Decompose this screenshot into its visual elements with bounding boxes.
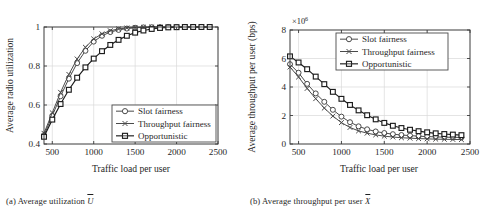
y-tick-labels-a: 0.40.60.81 <box>29 22 41 149</box>
data-point-marker <box>91 39 96 44</box>
data-point-marker <box>75 75 80 80</box>
data-point-marker <box>124 33 129 38</box>
data-point-marker <box>50 117 55 122</box>
overbar-a <box>88 194 93 195</box>
chart-a-svg: 5001000150020002500 0.40.60.81 Slot fair… <box>0 0 242 185</box>
legend-label: Slot fairness <box>362 34 407 44</box>
y-tick-label: 0 <box>281 139 286 149</box>
caption-a: (a) Average utilization U <box>6 196 94 206</box>
x-tick-labels-a: 5001000150020002500 <box>45 147 227 157</box>
x-tick-label: 1500 <box>375 147 394 157</box>
y-tick-label: 0.8 <box>29 61 41 71</box>
data-point-marker <box>356 108 361 113</box>
data-point-marker <box>322 99 327 104</box>
y-tick-label: 0.6 <box>29 100 41 110</box>
data-point-marker <box>116 27 121 32</box>
panel-a: 5001000150020002500 0.40.60.81 Slot fair… <box>0 0 242 220</box>
caption-b-text: Average throughput per user <box>262 196 363 206</box>
y-axis-label-b: Average throughput per user (bps) <box>246 21 258 152</box>
x-tick-label: 1000 <box>85 147 104 157</box>
data-point-marker <box>305 67 310 72</box>
data-point-marker <box>416 129 421 134</box>
legend-marker-circle-icon <box>346 37 351 42</box>
data-point-marker <box>433 131 438 136</box>
data-point-marker <box>313 74 318 79</box>
data-point-marker <box>158 26 163 31</box>
data-point-marker <box>116 37 121 42</box>
data-point-marker <box>296 60 301 65</box>
legend-label: Throughput fairness <box>362 47 435 57</box>
legend-a[interactable]: Slot fairnessThroughput fairnessOpportun… <box>112 105 216 142</box>
caption-a-prefix: (a) <box>6 196 16 206</box>
data-point-marker <box>408 127 413 132</box>
data-point-marker <box>313 91 318 96</box>
caption-b-symbol: X <box>365 196 370 206</box>
data-point-marker <box>425 130 430 135</box>
data-point-marker <box>100 49 105 54</box>
data-point-marker <box>399 133 404 138</box>
data-point-marker <box>58 102 63 107</box>
x-tick-label: 2000 <box>418 147 437 157</box>
chart-b: 5001000150020002500 02468 Slot fairnessT… <box>242 0 484 185</box>
y-tick-label: 0.4 <box>29 139 41 149</box>
x-axis-label-b: Traffic load per user <box>340 163 419 174</box>
data-point-marker <box>373 117 378 122</box>
x-tick-label: 1500 <box>126 147 145 157</box>
x-tick-label: 500 <box>292 147 306 157</box>
data-point-marker <box>66 87 71 92</box>
y-axis-label-a: Average radio utilization <box>4 38 15 133</box>
data-point-marker <box>141 28 146 33</box>
overbar-b <box>365 194 370 195</box>
y-tick-label: 2 <box>281 111 286 121</box>
caption-b-prefix: (b) <box>250 196 260 206</box>
caption-a-text: Average utilization <box>18 196 85 206</box>
data-point-marker <box>108 43 113 48</box>
x-tick-label: 2500 <box>461 147 480 157</box>
legend-label: Slot fairness <box>138 106 183 116</box>
data-point-marker <box>348 120 353 125</box>
y-axis-exponent-b: ×106 <box>292 16 308 26</box>
legend-b[interactable]: Slot fairnessThroughput fairnessOpportun… <box>336 33 448 70</box>
data-point-marker <box>348 103 353 108</box>
data-point-marker <box>133 30 138 35</box>
legend-label: Opportunistic <box>138 131 188 141</box>
data-point-marker <box>382 121 387 126</box>
x-tick-label: 2000 <box>167 147 186 157</box>
y-tick-labels-b: 02468 <box>281 25 286 149</box>
data-point-marker <box>459 133 464 138</box>
y-tick-label: 1 <box>35 22 40 32</box>
figure-two-panel: 5001000150020002500 0.40.60.81 Slot fair… <box>0 0 484 220</box>
data-point-marker <box>365 113 370 118</box>
data-point-marker <box>390 123 395 128</box>
data-point-marker <box>339 96 344 101</box>
x-tick-label: 2500 <box>209 147 228 157</box>
data-point-marker <box>399 126 404 131</box>
caption-b: (b) Average throughput per user X <box>250 196 370 206</box>
data-point-marker <box>83 65 88 70</box>
y-tick-label: 4 <box>281 82 286 92</box>
x-axis-label-a: Traffic load per user <box>92 163 171 174</box>
data-point-marker <box>91 56 96 61</box>
chart-a: 5001000150020002500 0.40.60.81 Slot fair… <box>0 0 242 185</box>
legend-marker-circle-icon <box>122 109 127 114</box>
data-point-marker <box>322 82 327 87</box>
data-point-marker <box>330 89 335 94</box>
x-tick-labels-b: 5001000150020002500 <box>292 147 480 157</box>
data-point-marker <box>330 107 335 112</box>
legend-label: Opportunistic <box>362 59 412 69</box>
data-point-marker <box>408 133 413 138</box>
data-point-marker <box>450 132 455 137</box>
legend-label: Throughput fairness <box>138 119 211 129</box>
y-tick-label: 6 <box>281 54 286 64</box>
caption-a-symbol: U <box>87 196 93 206</box>
data-point-marker <box>442 132 447 137</box>
data-point-marker <box>356 124 361 129</box>
panel-b: 5001000150020002500 02468 Slot fairnessT… <box>242 0 484 220</box>
data-point-marker <box>339 114 344 119</box>
y-tick-label: 8 <box>281 25 286 35</box>
chart-b-svg: 5001000150020002500 02468 Slot fairnessT… <box>242 0 484 185</box>
x-tick-label: 1000 <box>332 147 351 157</box>
x-tick-label: 500 <box>45 147 59 157</box>
